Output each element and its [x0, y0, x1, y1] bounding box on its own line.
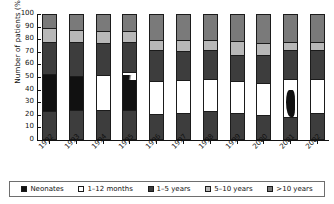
segment-divider: [42, 74, 57, 75]
bar-column[interactable]: [69, 14, 84, 140]
segment-divider: [149, 81, 164, 82]
bar-column[interactable]: [203, 14, 218, 140]
bar-segment[interactable]: [283, 51, 298, 80]
bar-segment[interactable]: [96, 32, 111, 45]
bar-segment[interactable]: [96, 76, 111, 111]
segment-divider: [96, 75, 111, 76]
x-tick-slot: 1997: [176, 141, 191, 171]
segment-divider: [310, 79, 325, 80]
segment-divider: [122, 31, 137, 32]
chart-legend: Neonates1–12 months1–5 years5–10 years>1…: [9, 181, 325, 197]
segment-divider: [230, 41, 245, 42]
segment-divider: [230, 81, 245, 82]
bar-segment[interactable]: [230, 14, 245, 42]
bar-segment[interactable]: [230, 42, 245, 56]
segment-divider: [203, 79, 218, 80]
bar-group: [38, 14, 329, 140]
legend-item[interactable]: >10 years: [267, 185, 312, 193]
x-tick-slot: 1995: [122, 141, 137, 171]
segment-divider: [176, 40, 191, 41]
bar-segment[interactable]: [69, 43, 84, 77]
bar-column[interactable]: [42, 14, 57, 140]
bar-segment[interactable]: [203, 80, 218, 113]
bar-segment[interactable]: [69, 14, 84, 30]
legend-swatch-icon: [78, 186, 84, 192]
bar-segment[interactable]: [203, 14, 218, 40]
bar-segment[interactable]: [149, 82, 164, 115]
bar-segment[interactable]: [203, 51, 218, 80]
bar-column[interactable]: [149, 14, 164, 140]
bar-segment[interactable]: [176, 14, 191, 40]
bar-segment[interactable]: [310, 80, 325, 114]
bar-segment[interactable]: [42, 43, 57, 75]
segment-divider: [69, 42, 84, 43]
bar-segment[interactable]: [122, 14, 137, 32]
y-tick-label: 80: [8, 35, 34, 42]
bar-segment[interactable]: [122, 77, 137, 111]
segment-divider: [149, 40, 164, 41]
bar-segment[interactable]: [310, 14, 325, 43]
y-tick-label: 60: [8, 60, 34, 67]
legend-swatch-icon: [205, 186, 211, 192]
bar-segment[interactable]: [122, 43, 137, 73]
bar-segment[interactable]: [256, 56, 271, 84]
segment-divider: [283, 117, 298, 118]
segment-divider: [96, 110, 111, 111]
segment-divider: [122, 42, 137, 43]
bar-segment[interactable]: [96, 14, 111, 32]
bar-column[interactable]: [96, 14, 111, 140]
bar-column[interactable]: [122, 14, 137, 140]
segment-divider: [42, 111, 57, 112]
bar-segment[interactable]: [149, 51, 164, 83]
x-tick-slot: 1998: [203, 141, 218, 171]
segment-divider: [42, 28, 57, 29]
segment-divider: [256, 55, 271, 56]
segment-divider: [256, 43, 271, 44]
bar-segment[interactable]: [283, 80, 298, 118]
segment-divider: [176, 113, 191, 114]
bar-segment[interactable]: [149, 14, 164, 40]
y-tick-label: 20: [8, 111, 34, 118]
segment-divider: [69, 30, 84, 31]
bar-segment[interactable]: [42, 29, 57, 43]
x-tick-slot: 2000: [256, 141, 271, 171]
segment-divider: [310, 50, 325, 51]
bar-segment[interactable]: [42, 14, 57, 29]
legend-label: >10 years: [276, 185, 312, 193]
bar-segment[interactable]: [176, 52, 191, 81]
x-tick-slot: 1993: [69, 141, 84, 171]
segment-divider: [96, 43, 111, 44]
legend-item[interactable]: 5–10 years: [205, 185, 252, 193]
y-tick-label: 100: [8, 10, 34, 17]
bar-column[interactable]: [310, 14, 325, 140]
bar-segment[interactable]: [230, 56, 245, 82]
bar-segment[interactable]: [256, 83, 271, 116]
x-tick-slot: 2002: [310, 141, 325, 171]
bar-segment[interactable]: [256, 14, 271, 44]
bar-segment[interactable]: [310, 51, 325, 80]
bar-segment[interactable]: [69, 77, 84, 111]
x-tick-slot: 1992: [42, 141, 57, 171]
segment-divider: [283, 79, 298, 80]
legend-item[interactable]: 1–5 years: [148, 185, 191, 193]
segment-divider: [122, 72, 137, 73]
legend-item[interactable]: Neonates: [21, 185, 63, 193]
segment-divider: [149, 50, 164, 51]
y-tick-label: 10: [8, 123, 34, 130]
segment-divider: [230, 55, 245, 56]
bar-segment[interactable]: [69, 30, 84, 43]
bar-segment[interactable]: [230, 82, 245, 114]
bar-segment[interactable]: [283, 14, 298, 43]
bar-segment[interactable]: [42, 74, 57, 112]
segment-divider: [283, 42, 298, 43]
bar-column[interactable]: [230, 14, 245, 140]
bar-column[interactable]: [176, 14, 191, 140]
legend-label: 1–5 years: [157, 185, 191, 193]
legend-swatch-icon: [21, 186, 27, 192]
bar-column[interactable]: [256, 14, 271, 140]
legend-item[interactable]: 1–12 months: [78, 185, 132, 193]
legend-swatch-icon: [148, 186, 154, 192]
bar-segment[interactable]: [176, 81, 191, 114]
bar-segment[interactable]: [96, 44, 111, 76]
bar-column[interactable]: [283, 14, 298, 140]
